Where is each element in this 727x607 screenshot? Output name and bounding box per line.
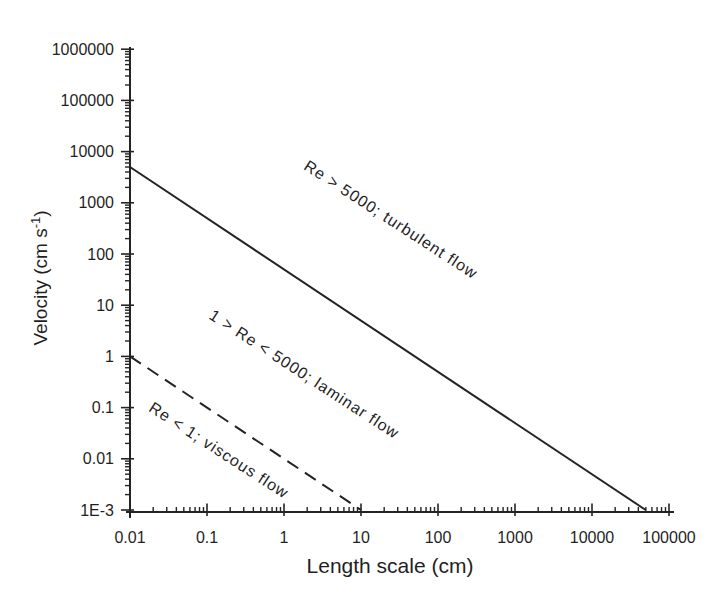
y-tick-label: 1 xyxy=(105,348,114,365)
x-tick-label: 100 xyxy=(425,529,452,546)
x-tick-label: 1 xyxy=(280,529,289,546)
y-tick-label: 10000 xyxy=(70,143,115,160)
annotation-group-1: 1 > Re < 5000; laminar flow xyxy=(206,306,402,442)
y-axis-title: Velocity (cm s-1) xyxy=(28,210,51,345)
x-tick-label: 10000 xyxy=(570,529,615,546)
y-tick-label: 100000 xyxy=(61,92,114,109)
x-tick-label: 10 xyxy=(352,529,370,546)
y-tick-label: 100 xyxy=(87,246,114,263)
y-tick-label: 10 xyxy=(96,297,114,314)
annotation-label-0: Re > 5000; turbulent flow xyxy=(301,157,481,282)
x-tick-label: 0.1 xyxy=(196,529,218,546)
y-tick-label: 0.1 xyxy=(92,399,114,416)
flow-regime-figure: 0.010.11101001000100001000001E-30.010.11… xyxy=(0,0,727,607)
annotation-group-0: Re > 5000; turbulent flow xyxy=(301,157,481,282)
x-tick-label: 1000 xyxy=(497,529,533,546)
x-tick-label: 0.01 xyxy=(114,529,145,546)
annotation-label-1: 1 > Re < 5000; laminar flow xyxy=(206,306,402,442)
y-tick-label: 1E-3 xyxy=(80,502,114,519)
y-tick-label: 0.01 xyxy=(83,450,114,467)
x-tick-label: 100000 xyxy=(642,529,695,546)
flow-regime-chart: 0.010.11101001000100001000001E-30.010.11… xyxy=(0,0,727,607)
y-tick-label: 1000000 xyxy=(52,41,114,58)
y-tick-label: 1000 xyxy=(78,194,114,211)
x-axis-title: Length scale (cm) xyxy=(307,554,474,577)
